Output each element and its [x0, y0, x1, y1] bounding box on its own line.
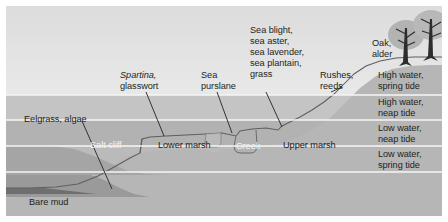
label-glasswort: glasswort [120, 81, 158, 92]
label-lower-marsh: Lower marsh [158, 140, 211, 151]
label-alder: alder [372, 49, 392, 60]
label-sea-lavender: sea lavender, [250, 47, 304, 58]
label-bare-mud: Bare mud [29, 197, 68, 208]
label-sea: Sea [201, 70, 217, 81]
label-salt-cliff: Salt cliff [90, 140, 122, 151]
label-upper-marsh: Upper marsh [283, 140, 336, 151]
label-sea-plantain: sea plantain, [250, 58, 301, 69]
salt-marsh-zonation-diagram: Eelgrass, algae Spartina, glasswort Sea … [0, 0, 448, 222]
label-reeds: reeds [320, 81, 343, 92]
label-low-water-spring-line2: spring tide [378, 160, 420, 171]
label-purslane: purslane [201, 81, 236, 92]
label-high-water-spring-line1: High water, [378, 70, 423, 81]
label-sea-blight: Sea blight, [250, 25, 293, 36]
label-low-water-spring-line1: Low water, [378, 149, 421, 160]
label-rushes: Rushes, [320, 70, 353, 81]
label-eelgrass-algae: Eelgrass, algae [24, 114, 87, 125]
label-creek: Creek [236, 141, 260, 152]
label-low-water-neap-line1: Low water, [378, 123, 421, 134]
label-spartina: Spartina, [120, 70, 156, 81]
label-sea-aster: sea aster, [250, 36, 289, 47]
label-oak: Oak, [372, 38, 391, 49]
label-high-water-spring-line2: spring tide [378, 81, 420, 92]
label-high-water-neap-line1: High water, [378, 97, 423, 108]
label-high-water-neap-line2: neap tide [378, 108, 415, 119]
label-grass: grass [250, 69, 272, 80]
label-low-water-neap-line2: neap tide [378, 134, 415, 145]
